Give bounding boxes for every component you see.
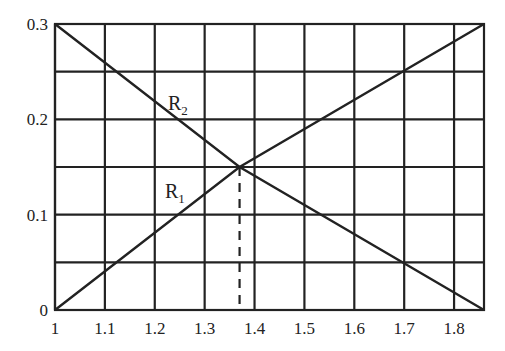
- series-label-r1: R1: [165, 180, 185, 206]
- y-tick-label: 0.1: [27, 206, 48, 225]
- y-tick-label: 0.3: [27, 15, 48, 34]
- y-axis-ticks: 00.10.20.3: [27, 15, 48, 320]
- y-tick-label: 0.2: [27, 110, 48, 129]
- x-tick-label: 1.1: [94, 319, 115, 338]
- x-tick-label: 1.6: [344, 319, 365, 338]
- x-axis-ticks: 11.11.21.31.41.51.61.71.8: [51, 319, 465, 338]
- x-tick-label: 1: [51, 319, 60, 338]
- x-tick-label: 1.2: [144, 319, 165, 338]
- chart: 00.10.20.3 11.11.21.31.41.51.61.71.8 R1R…: [0, 0, 505, 351]
- x-tick-label: 1.8: [443, 319, 464, 338]
- y-tick-label: 0: [40, 301, 49, 320]
- x-tick-label: 1.4: [244, 319, 266, 338]
- x-tick-label: 1.7: [394, 319, 416, 338]
- x-tick-label: 1.3: [194, 319, 215, 338]
- x-tick-label: 1.5: [294, 319, 315, 338]
- series-labels: R1R2: [165, 92, 188, 206]
- grid: [55, 24, 484, 310]
